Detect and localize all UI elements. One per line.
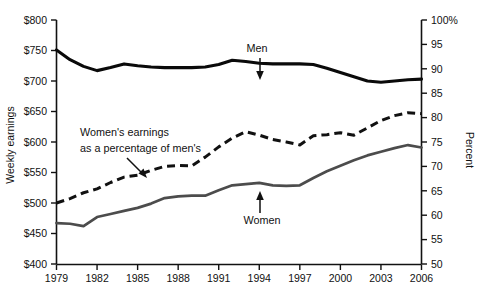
y-axis-right-tick-label: 70 [431, 160, 443, 172]
y-axis-left-tick-label: $750 [24, 44, 48, 56]
ratio-annotation-label-line1: Women's earnings [80, 126, 169, 138]
series-line-men [57, 50, 422, 82]
x-axis-tick-label: 1994 [248, 272, 272, 284]
y-axis-left-tick-label: $700 [24, 75, 48, 87]
x-axis-tick-label: 1982 [85, 272, 109, 284]
y-axis-right-tick-label: 100% [431, 14, 458, 26]
x-axis-tick-label: 2003 [369, 272, 393, 284]
y-axis-right-ticks: 50556065707580859095100% [422, 14, 458, 270]
y-axis-left-tick-label: $550 [24, 166, 48, 178]
women-annotation-label: Women [243, 214, 280, 226]
men-annotation-arrow-head [256, 71, 264, 80]
x-axis-tick-label: 1979 [45, 272, 69, 284]
y-axis-left-ticks: $400$450$500$550$600$650$700$750$800 [24, 14, 57, 270]
annotation-ratio: Women's earnings as a percentage of men'… [80, 126, 202, 178]
y-axis-left-title: Weekly earnings [4, 106, 16, 183]
x-axis-ticks: 1979198219851988199119941997200020032006 [45, 265, 434, 285]
y-axis-left-tick-label: $500 [24, 197, 48, 209]
y-axis-right-tick-label: 75 [431, 136, 443, 148]
earnings-line-chart: $400$450$500$550$600$650$700$750$800 505… [0, 0, 478, 290]
y-axis-right-tick-label: 80 [431, 111, 443, 123]
y-axis-left-tick-label: $600 [24, 136, 48, 148]
ratio-annotation-arrow-shaft [127, 158, 142, 173]
y-axis-right-tick-label: 95 [431, 38, 443, 50]
x-axis-tick-label: 1985 [126, 272, 150, 284]
women-annotation-arrow-head [256, 191, 264, 200]
chart-canvas: $400$450$500$550$600$650$700$750$800 505… [0, 0, 478, 290]
ratio-annotation-label-line2: as a percentage of men's [80, 142, 202, 154]
y-axis-left-tick-label: $650 [24, 105, 48, 117]
y-axis-right-tick-label: 65 [431, 185, 443, 197]
x-axis-tick-label: 2006 [410, 272, 434, 284]
y-axis-left-tick-label: $450 [24, 227, 48, 239]
x-axis-tick-label: 1997 [288, 272, 312, 284]
x-axis-tick-label: 2000 [329, 272, 353, 284]
men-annotation-label: Men [246, 42, 267, 54]
series-line-women [57, 145, 422, 226]
y-axis-right-tick-label: 90 [431, 63, 443, 75]
x-axis-tick-label: 1988 [166, 272, 190, 284]
y-axis-right-tick-label: 50 [431, 258, 443, 270]
y-axis-left-tick-label: $400 [24, 258, 48, 270]
y-axis-right-tick-label: 85 [431, 87, 443, 99]
y-axis-right-title: Percent [464, 132, 476, 168]
y-axis-right-tick-label: 60 [431, 209, 443, 221]
annotation-women: Women [243, 191, 280, 226]
y-axis-left-tick-label: $800 [24, 14, 48, 26]
x-axis-tick-label: 1991 [207, 272, 231, 284]
y-axis-right-tick-label: 55 [431, 233, 443, 245]
